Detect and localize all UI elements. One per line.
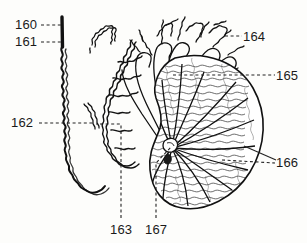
reference-label-162: 162 (11, 116, 33, 129)
reference-label-164: 164 (243, 30, 265, 43)
squiggle-fragment-top (90, 26, 116, 53)
reference-label-165: 165 (276, 69, 298, 82)
reference-label-160: 160 (15, 18, 37, 31)
reference-label-161: 161 (15, 35, 37, 48)
kidney-hilum (163, 138, 178, 152)
reference-label-166: 166 (276, 156, 298, 169)
coiled-tubule-left (59, 47, 109, 195)
straight-collecting-duct (62, 17, 63, 47)
patent-figure: 160 161 162 163 164 165 166 167 (0, 0, 307, 243)
reference-label-163: 163 (110, 223, 132, 236)
kidney-body (149, 56, 263, 209)
leader-163 (96, 124, 121, 218)
reference-label-167: 167 (145, 223, 167, 236)
squiggle-fragment-mid (84, 103, 99, 129)
